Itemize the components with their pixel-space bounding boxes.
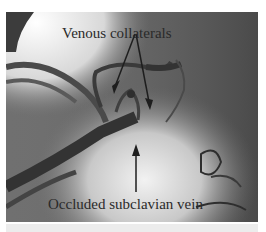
venous-collaterals-label: Venous collaterals	[62, 25, 172, 42]
caption-strip	[6, 224, 258, 232]
occluded-subclavian-vein-label: Occluded subclavian vein	[48, 196, 203, 213]
xray-graphic	[6, 12, 258, 222]
angiogram-image: Venous collaterals Occluded subclavian v…	[6, 12, 258, 222]
